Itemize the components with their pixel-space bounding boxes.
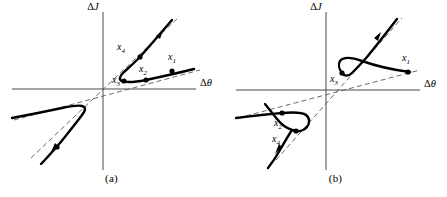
point-dot-x1-b — [405, 69, 410, 74]
trajectory-upper-right-a — [120, 20, 194, 82]
trajectory-lower-left-b-upper — [236, 104, 309, 131]
point-label-x3-a: x3 — [111, 74, 120, 88]
panel-b: x1 x3 x2 x4 ΔJ Δθ (b) — [224, 0, 447, 197]
point-dot-x2-a — [143, 77, 148, 82]
point-dot-x4-a — [137, 54, 142, 59]
point-label-x1-b: x1 — [401, 52, 410, 66]
y-axis-label-a: ΔJ — [87, 1, 100, 12]
panel-b-plot: x1 x3 x2 x4 ΔJ Δθ — [224, 0, 447, 176]
trajectory-upper-right-b — [339, 19, 410, 76]
steep-asymptote-b — [276, 18, 402, 160]
x-axis-label-a: Δθ — [200, 77, 212, 88]
point-dot-x1-a — [169, 68, 174, 73]
panel-a: x1 x2 x3 x4 ΔJ Δθ (a) — [0, 0, 223, 197]
point-label-x2-b: x2 — [273, 117, 282, 131]
point-dot-x2-b — [279, 110, 284, 115]
point-label-x1-a: x1 — [167, 51, 176, 65]
y-axis-label-b: ΔJ — [310, 1, 323, 12]
panel-a-plot: x1 x2 x3 x4 ΔJ Δθ — [0, 0, 223, 176]
point-dot-lower-a — [54, 144, 59, 149]
point-dot-x3-a — [121, 78, 126, 83]
figure-root: x1 x2 x3 x4 ΔJ Δθ (a) — [0, 0, 447, 197]
point-label-x3-b: x3 — [329, 73, 338, 87]
trajectory-lower-left-a — [12, 106, 85, 164]
shallow-asymptote-b — [238, 70, 420, 118]
point-label-x4-a: x4 — [116, 41, 125, 55]
point-dot-x3-b — [339, 70, 344, 75]
panel-caption-b: (b) — [224, 172, 447, 184]
point-label-x2-a: x2 — [138, 63, 147, 77]
point-label-x4-b: x4 — [271, 133, 280, 147]
x-axis-label-b: Δθ — [424, 78, 436, 89]
point-dot-x4-b — [293, 128, 298, 133]
panel-caption-a: (a) — [0, 172, 223, 184]
